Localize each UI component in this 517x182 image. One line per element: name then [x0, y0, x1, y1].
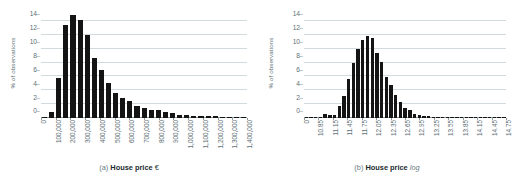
bar-slot: [77, 14, 84, 118]
bar-slot: [212, 14, 219, 118]
y-tick-mark: –: [299, 53, 303, 60]
x-tick-mark: [173, 118, 174, 120]
y-tick-mark: –: [36, 39, 40, 46]
bar-slot: [105, 14, 112, 118]
bar-slot: [176, 14, 183, 118]
x-tick-label: 13.55: [448, 120, 454, 136]
y-tick-mark: –: [36, 108, 40, 115]
x-tick-mark: [405, 118, 406, 120]
x-tick-mark: [159, 118, 160, 120]
histogram-bar: [403, 108, 406, 118]
y-tick-mark: –: [36, 80, 40, 87]
histogram-bar: [375, 53, 378, 118]
x-tick-label: 1,100,000: [203, 120, 209, 148]
bar-slot: [205, 14, 212, 118]
histogram-bar: [394, 95, 397, 118]
x-tick-mark: [448, 118, 449, 120]
x-tick-mark: [333, 118, 334, 120]
x-tick-label: 12.35: [391, 120, 397, 136]
x-tick-label: 300,000: [85, 120, 91, 143]
histogram-bar: [127, 101, 132, 118]
x-tick-label: 12.95: [419, 120, 425, 136]
bar-slot: [190, 14, 197, 118]
bar-slot: [240, 14, 247, 118]
x-tick-mark: [347, 118, 348, 120]
y-tick-mark: –: [36, 25, 40, 32]
plot-area-b: 0–2–4–6–8–10–12–14–: [304, 14, 506, 118]
histogram-bar: [156, 110, 161, 118]
x-tick-label: 14.15: [477, 120, 483, 136]
chart-panel-a: % of observations 0–2–4–6–8–10–12–14– 01…: [0, 0, 258, 182]
bar-slot: [62, 14, 69, 118]
x-tick-mark: [218, 118, 219, 120]
x-tick-mark: [85, 118, 86, 120]
chart-panel-b: % of observations 0–2–4–6–8–10–12–14– 01…: [258, 0, 516, 182]
bar-slot: [141, 14, 148, 118]
bar-slot: [126, 14, 133, 118]
x-tick-mark: [41, 118, 42, 120]
bar-slot: [55, 14, 62, 118]
x-tick-label: 0: [304, 120, 310, 124]
y-tick-mark: –: [299, 39, 303, 46]
plot-area-a: 0–2–4–6–8–10–12–14–: [41, 14, 247, 118]
x-tick-label: 700,000: [144, 120, 150, 143]
x-tick-mark: [115, 118, 116, 120]
x-tick-label: 12.65: [405, 120, 411, 136]
caption-b-suffix: log: [410, 163, 420, 172]
histogram-bar: [106, 83, 111, 118]
histogram-bar: [347, 79, 350, 118]
histogram-bar: [63, 25, 68, 118]
bar-slot: [219, 14, 226, 118]
x-tick-label: 14.75: [506, 120, 512, 136]
x-tick-mark: [247, 118, 248, 120]
x-tick-mark: [419, 118, 420, 120]
histogram-bar: [99, 70, 104, 118]
x-tick-label: 1,200,000: [218, 120, 224, 148]
x-tick-mark: [188, 118, 189, 120]
x-tick-mark: [56, 118, 57, 120]
x-tick-label: 14.45: [492, 120, 498, 136]
histogram-bar: [371, 38, 374, 118]
bar-series-b: [304, 14, 506, 118]
x-tick-label: 13.85: [463, 120, 469, 136]
histogram-bar: [134, 106, 139, 118]
x-tick-label: 1,400,000: [247, 120, 253, 148]
x-tick-mark: [304, 118, 305, 120]
y-axis-title-a: % of observations: [9, 0, 16, 20]
histogram-bar: [149, 110, 154, 118]
x-tick-mark: [70, 118, 71, 120]
y-tick-mark: –: [36, 94, 40, 101]
x-tick-mark: [506, 118, 507, 120]
x-tick-label: 800,000: [159, 120, 165, 143]
x-tick-mark: [391, 118, 392, 120]
bar-slot: [502, 14, 507, 118]
bar-slot: [133, 14, 140, 118]
bar-slot: [41, 14, 48, 118]
caption-a: (a) House price €: [0, 163, 258, 172]
y-tick-mark: –: [299, 11, 303, 18]
histogram-bar: [120, 98, 125, 118]
histogram-bar: [85, 35, 90, 118]
x-tick-mark: [434, 118, 435, 120]
bar-slot: [112, 14, 119, 118]
y-tick-mark: –: [36, 11, 40, 18]
y-tick-mark: –: [299, 108, 303, 115]
x-tick-mark: [129, 118, 130, 120]
histogram-bar: [78, 20, 83, 118]
y-tick-mark: –: [299, 25, 303, 32]
caption-b-prefix: (b): [354, 163, 363, 172]
caption-a-bold: House price: [110, 163, 152, 172]
caption-b: (b) House price log: [258, 163, 516, 172]
histogram-bar: [361, 40, 364, 118]
x-tick-label: 11.45: [347, 120, 353, 136]
histogram-bar: [385, 77, 388, 118]
x-axis-a: 0100,000200,000300,000400,000500,000600,…: [41, 118, 247, 166]
histogram-bar: [70, 15, 75, 118]
y-tick-mark: –: [299, 94, 303, 101]
bar-slot: [98, 14, 105, 118]
histogram-bar: [142, 108, 147, 118]
x-tick-mark: [144, 118, 145, 120]
y-tick-mark: –: [299, 67, 303, 74]
x-tick-label: 12.05: [376, 120, 382, 136]
caption-a-suffix: €: [155, 163, 159, 172]
